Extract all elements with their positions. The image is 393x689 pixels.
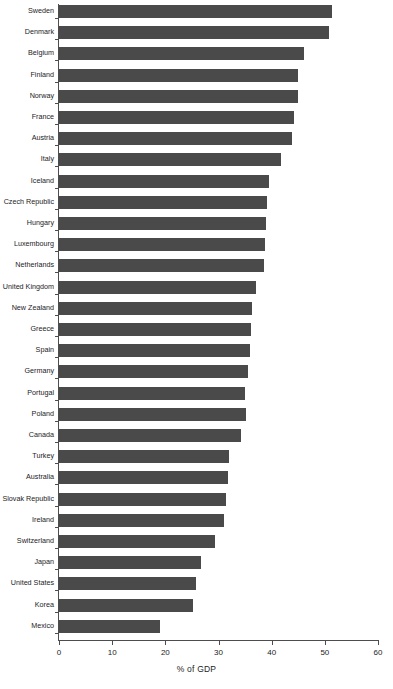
bar xyxy=(59,281,256,294)
bar xyxy=(59,514,224,527)
y-axis-tick xyxy=(55,315,59,316)
bar xyxy=(59,365,248,378)
bar-row: France xyxy=(59,110,378,131)
y-axis-tick xyxy=(55,569,59,570)
bar-row: New Zealand xyxy=(59,301,378,322)
bar xyxy=(59,238,265,251)
bar-row: Norway xyxy=(59,89,378,110)
category-label: Turkey xyxy=(2,449,54,462)
y-axis-tick xyxy=(55,251,59,252)
bar xyxy=(59,323,251,336)
y-axis-tick xyxy=(55,527,59,528)
y-axis-tick xyxy=(55,442,59,443)
y-axis-tick xyxy=(55,590,59,591)
x-axis-tick-label: 10 xyxy=(92,648,132,657)
bar-row: Portugal xyxy=(59,386,378,407)
category-label: Poland xyxy=(2,407,54,420)
x-axis-tick xyxy=(272,640,273,645)
x-axis-tick xyxy=(219,640,220,645)
y-axis-tick xyxy=(55,463,59,464)
bar-row: Luxembourg xyxy=(59,237,378,258)
y-axis-tick xyxy=(55,188,59,189)
bar xyxy=(59,153,281,166)
y-axis-tick xyxy=(55,18,59,19)
y-axis-tick xyxy=(55,400,59,401)
bar xyxy=(59,620,160,633)
category-label: Germany xyxy=(2,364,54,377)
bar-row: Belgium xyxy=(59,46,378,67)
bar xyxy=(59,90,298,103)
y-axis-tick xyxy=(55,145,59,146)
y-axis-tick xyxy=(55,39,59,40)
category-label: Norway xyxy=(2,89,54,102)
bar-row: Ireland xyxy=(59,513,378,534)
bar xyxy=(59,132,292,145)
x-axis-tick xyxy=(378,640,379,645)
bar-row: Finland xyxy=(59,68,378,89)
x-axis-tick-label: 40 xyxy=(252,648,292,657)
y-axis-tick xyxy=(55,209,59,210)
bar-row: Iceland xyxy=(59,174,378,195)
category-label: Australia xyxy=(2,470,54,483)
bar xyxy=(59,387,245,400)
bar xyxy=(59,493,226,506)
category-label: Iceland xyxy=(2,174,54,187)
y-axis-tick xyxy=(55,294,59,295)
x-axis-tick-label: 60 xyxy=(358,648,393,657)
y-axis-tick xyxy=(55,336,59,337)
bar-row: Poland xyxy=(59,407,378,428)
category-label: Luxembourg xyxy=(2,237,54,250)
category-label: Sweden xyxy=(2,4,54,17)
bar xyxy=(59,111,294,124)
bar-row: United States xyxy=(59,576,378,597)
category-label: France xyxy=(2,110,54,123)
bar-row: Slovak Republic xyxy=(59,492,378,513)
bar xyxy=(59,259,264,272)
category-label: New Zealand xyxy=(2,301,54,314)
bar xyxy=(59,429,241,442)
bar-chart: SwedenDenmarkBelgiumFinlandNorwayFranceA… xyxy=(0,0,393,689)
category-label: Switzerland xyxy=(2,534,54,547)
bar xyxy=(59,26,329,39)
x-axis-tick xyxy=(112,640,113,645)
bar-row: Sweden xyxy=(59,4,378,25)
bar xyxy=(59,599,193,612)
category-label: Canada xyxy=(2,428,54,441)
y-axis-tick xyxy=(55,421,59,422)
category-label: Netherlands xyxy=(2,258,54,271)
y-axis-tick xyxy=(55,612,59,613)
y-axis-tick xyxy=(55,124,59,125)
x-axis-tick xyxy=(325,640,326,645)
bar xyxy=(59,471,228,484)
bar xyxy=(59,535,215,548)
bar-row: Austria xyxy=(59,131,378,152)
bar-row: Hungary xyxy=(59,216,378,237)
y-axis-tick xyxy=(55,506,59,507)
y-axis-tick xyxy=(55,166,59,167)
x-axis-tick xyxy=(59,640,60,645)
bar-row: Czech Republic xyxy=(59,195,378,216)
y-axis-tick xyxy=(55,103,59,104)
bar xyxy=(59,556,201,569)
y-axis-tick xyxy=(55,272,59,273)
bar-row: United Kingdom xyxy=(59,280,378,301)
category-label: Greece xyxy=(2,322,54,335)
y-axis-tick xyxy=(55,82,59,83)
bar-row: Switzerland xyxy=(59,534,378,555)
y-axis-tick xyxy=(55,484,59,485)
bar xyxy=(59,450,229,463)
plot-area: SwedenDenmarkBelgiumFinlandNorwayFranceA… xyxy=(59,4,378,640)
bar xyxy=(59,302,252,315)
bar-row: Netherlands xyxy=(59,258,378,279)
x-axis-tick-label: 0 xyxy=(39,648,79,657)
y-axis-tick xyxy=(55,548,59,549)
x-axis-title: % of GDP xyxy=(0,664,393,674)
bar xyxy=(59,577,196,590)
x-axis-tick xyxy=(165,640,166,645)
bar-row: Australia xyxy=(59,470,378,491)
category-label: Korea xyxy=(2,598,54,611)
category-label: Hungary xyxy=(2,216,54,229)
bar xyxy=(59,69,298,82)
y-axis-tick xyxy=(55,378,59,379)
y-axis-tick xyxy=(55,60,59,61)
